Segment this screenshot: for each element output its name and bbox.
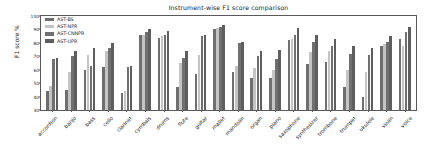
legend-item[interactable]: AST-UPR [45,39,84,44]
bar[interactable] [185,51,188,110]
bar[interactable] [241,42,244,110]
chart-legend: AST-BSAST-NPRAST-CNNPRAST-UPR [45,17,84,44]
x-tick-mark [71,110,72,112]
legend-label: AST-UPR [57,39,77,44]
legend-label: AST-BS [57,17,74,22]
x-tick-mark [182,110,183,112]
x-tick-label: cymbals [132,115,152,135]
y-tick-label: 40 [33,94,39,99]
x-tick-label: guitar [193,115,208,130]
x-tick-mark [145,110,146,112]
y-axis-label: F1 score % [13,12,20,72]
bar[interactable] [148,29,151,110]
bar-group [117,16,136,110]
x-tick-label: piano [268,115,282,129]
chart-title: Instrument-wise F1 score comparison [40,4,417,11]
y-tick-label: 100 [31,14,39,19]
x-tick-label: mandolin [224,115,245,136]
legend-swatch [45,32,54,36]
x-tick-mark [275,110,276,112]
bar[interactable] [167,31,170,110]
bar-group [377,16,396,110]
bar[interactable] [297,28,300,110]
bar-group [284,16,303,110]
bar[interactable] [389,36,392,110]
figure-canvas: Instrument-wise F1 score comparison F1 s… [0,0,439,156]
x-tick-mark [89,110,90,112]
x-tick-mark [238,110,239,112]
bar[interactable] [93,48,96,110]
x-tick-mark [126,110,127,112]
y-tick-label: 80 [33,40,39,45]
bar[interactable] [56,58,59,110]
legend-swatch [45,39,54,43]
legend-item[interactable]: AST-CNNPR [45,31,84,36]
y-tick-label: 30 [33,108,39,113]
x-tick-label: bass [83,115,96,128]
bar[interactable] [352,46,355,110]
legend-swatch [45,25,54,29]
bar-group [303,16,322,110]
x-tick-label: organ [249,115,264,130]
bar[interactable] [222,25,225,110]
bar-group [247,16,266,110]
plot-area: 30405060708090100 [40,15,417,111]
x-tick-mark [201,110,202,112]
x-tick-label: ukulele [358,115,375,132]
legend-label: AST-CNNPR [57,31,84,36]
legend-item[interactable]: AST-BS [45,17,84,22]
bar-group [99,16,118,110]
bar[interactable] [260,51,263,110]
bar-group [154,16,173,110]
x-tick-label: voice [399,115,413,129]
x-tick-mark [293,110,294,112]
legend-label: AST-NPR [57,24,77,29]
bar-group [266,16,285,110]
x-tick-label: cello [102,115,115,128]
x-tick-mark [164,110,165,112]
bar[interactable] [111,43,114,110]
bar[interactable] [334,39,337,110]
x-tick-label: drums [155,115,171,131]
x-tick-label: accordion [36,115,58,137]
bar-group [340,16,359,110]
x-tick-label: flute [177,115,190,128]
bar-group [321,16,340,110]
x-tick-mark [330,110,331,112]
y-tick-label: 60 [33,67,39,72]
x-tick-mark [312,110,313,112]
y-tick-label: 50 [33,81,39,86]
bar[interactable] [408,27,411,110]
bar-group [191,16,210,110]
bar-group [395,16,414,110]
x-axis-tick-labels: accordionbanjobasscelloclarinetcymbalsdr… [40,113,417,156]
x-tick-mark [52,110,53,112]
x-tick-mark [108,110,109,112]
x-tick-label: banjo [63,115,77,129]
x-tick-mark [405,110,406,112]
legend-swatch [45,18,54,22]
x-tick-label: mallet [211,115,227,131]
bar-group [136,16,155,110]
x-tick-label: clarinet [115,115,133,133]
bar-group [210,16,229,110]
x-tick-mark [349,110,350,112]
bar[interactable] [278,50,281,110]
bar[interactable] [74,51,77,110]
x-tick-mark [386,110,387,112]
bar-group [173,16,192,110]
bar-group [358,16,377,110]
y-tick-label: 90 [33,27,39,32]
y-tick-label: 70 [33,54,39,59]
x-tick-label: trumpet [338,115,357,134]
bar-group [228,16,247,110]
bar[interactable] [130,66,133,110]
bar[interactable] [371,48,374,110]
bar[interactable] [315,35,318,110]
x-tick-mark [219,110,220,112]
bars-container [41,16,416,110]
bar[interactable] [204,35,207,110]
x-tick-mark [368,110,369,112]
x-tick-mark [256,110,257,112]
legend-item[interactable]: AST-NPR [45,24,84,29]
